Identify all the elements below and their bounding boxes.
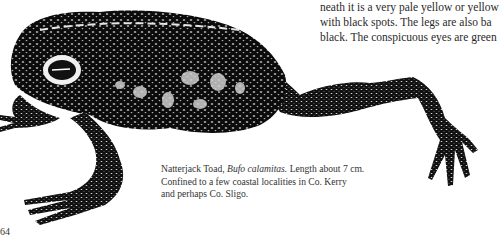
body-text-line: neath it is a very pale yellow or yellow [320, 0, 504, 15]
eye-detail [43, 55, 81, 85]
caption-line-2: Confined to a few coastal localities in … [161, 176, 364, 189]
caption-length: Length about 7 cm. [287, 163, 364, 174]
body-text-line: with black spots. The legs are also ba [320, 15, 504, 30]
caption-common-name: Natterjack Toad, [161, 163, 227, 174]
caption-line-1: Natterjack Toad, Bufo calamitas. Length … [161, 163, 364, 176]
figure-caption: Natterjack Toad, Bufo calamitas. Length … [161, 163, 364, 201]
caption-scientific-name: Bufo calamitas. [227, 163, 287, 174]
body-text-line: black. The conspicuous eyes are green [320, 30, 504, 45]
page-number: 64 [0, 226, 10, 237]
caption-line-3: and perhaps Co. Sligo. [161, 188, 364, 201]
body-text-paragraph: neath it is a very pale yellow or yellow… [320, 0, 504, 45]
